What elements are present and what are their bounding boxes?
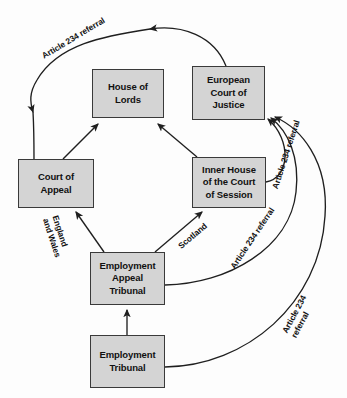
node-employment-appeal-tribunal-label: Employment Appeal Tribunal [99, 260, 155, 298]
edge-eat-to-inner-house [155, 212, 202, 252]
node-court-of-appeal[interactable]: Court of Appeal [18, 159, 94, 208]
edge-inner-house-to-house-of-lords [158, 124, 197, 157]
node-employment-appeal-tribunal[interactable]: Employment Appeal Tribunal [90, 252, 165, 305]
edge-court-of-appeal-to-house-of-lords [63, 124, 98, 159]
edge-eat-to-court-of-appeal [76, 212, 104, 252]
node-inner-house-court-of-session[interactable]: Inner House of the Court of Session [192, 157, 266, 208]
court-structure-diagram: House of Lords European Court of Justice… [0, 0, 347, 398]
node-house-of-lords[interactable]: House of Lords [92, 69, 164, 118]
edge-ecj-to-court-of-appeal [150, 28, 226, 66]
node-european-court-of-justice[interactable]: European Court of Justice [192, 66, 265, 120]
node-employment-tribunal-label: Employment Tribunal [99, 349, 155, 374]
node-employment-tribunal[interactable]: Employment Tribunal [90, 335, 165, 388]
node-court-of-appeal-label: Court of Appeal [38, 171, 74, 196]
edge-ecj-to-court-of-appeal-stem [33, 112, 34, 159]
edge-employment-tribunal-to-ecj [165, 117, 325, 367]
node-european-court-of-justice-label: European Court of Justice [207, 74, 250, 112]
node-house-of-lords-label: House of Lords [108, 81, 148, 106]
node-inner-house-court-of-session-label: Inner House of the Court of Session [202, 164, 256, 202]
